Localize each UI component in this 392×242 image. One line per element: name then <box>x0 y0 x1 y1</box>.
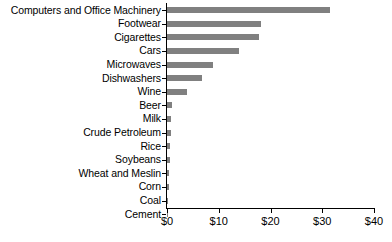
bar <box>167 143 170 149</box>
bar <box>167 198 168 204</box>
x-axis-label: $40 <box>365 215 383 228</box>
bar <box>167 34 259 40</box>
category-label: Cement <box>125 208 161 222</box>
y-axis-tick <box>162 146 166 147</box>
bar <box>167 75 202 81</box>
category-label: Dishwashers <box>102 72 161 86</box>
y-axis-tick <box>162 10 166 11</box>
chart-row: Milk <box>0 112 392 126</box>
category-label: Wheat and Meslin <box>79 167 161 181</box>
category-label: Microwaves <box>107 58 161 72</box>
chart-row: Soybeans <box>0 153 392 167</box>
chart-row: Dishwashers <box>0 72 392 86</box>
bar-chart: Computers and Office MachineryFootwearCi… <box>0 0 392 242</box>
chart-row: Beer <box>0 99 392 113</box>
bar <box>167 48 239 54</box>
y-axis-tick <box>162 24 166 25</box>
bar <box>167 157 170 163</box>
y-axis-tick <box>162 133 166 134</box>
category-label: Coal <box>140 194 161 208</box>
category-label: Soybeans <box>115 153 161 167</box>
y-axis-tick <box>162 78 166 79</box>
x-axis-tick <box>219 209 220 213</box>
bar <box>167 102 172 108</box>
chart-row: Rice <box>0 140 392 154</box>
category-label: Corn <box>139 180 161 194</box>
y-axis-tick <box>162 92 166 93</box>
chart-row: Cars <box>0 44 392 58</box>
bar <box>167 21 261 27</box>
y-axis-tick <box>162 187 166 188</box>
x-axis-label: $30 <box>313 215 331 228</box>
y-axis-tick <box>162 160 166 161</box>
chart-row: Wheat and Meslin <box>0 167 392 181</box>
y-axis-tick <box>162 119 166 120</box>
y-axis-tick <box>162 105 166 106</box>
chart-row: Footwear <box>0 17 392 31</box>
chart-row: Computers and Office Machinery <box>0 4 392 18</box>
x-axis-label: $20 <box>261 215 279 228</box>
chart-row: Crude Petroleum <box>0 126 392 140</box>
bar <box>167 62 213 68</box>
category-label: Computers and Office Machinery <box>11 4 161 18</box>
bar <box>167 130 171 136</box>
y-axis-tick <box>162 51 166 52</box>
x-axis-tick <box>167 209 168 213</box>
bar <box>167 7 330 13</box>
y-axis-tick <box>162 173 166 174</box>
category-label: Footwear <box>118 17 161 31</box>
chart-row: Cigarettes <box>0 31 392 45</box>
chart-row: Coal <box>0 194 392 208</box>
y-axis-tick <box>162 65 166 66</box>
chart-row: Corn <box>0 180 392 194</box>
x-axis-tick <box>322 209 323 213</box>
bar <box>167 170 169 176</box>
bar <box>167 184 169 190</box>
category-label: Cigarettes <box>114 31 161 45</box>
category-label: Cars <box>139 44 161 58</box>
category-label: Milk <box>143 112 161 126</box>
x-axis-label: $10 <box>210 215 228 228</box>
bar <box>167 116 171 122</box>
chart-row: Cement <box>0 208 392 222</box>
x-axis-tick <box>271 209 272 213</box>
category-label: Beer <box>139 99 161 113</box>
category-label: Rice <box>140 140 161 154</box>
bar <box>167 89 187 95</box>
x-axis-tick <box>374 209 375 213</box>
category-label: Wine <box>137 85 161 99</box>
category-label: Crude Petroleum <box>83 126 161 140</box>
x-axis-label: $0 <box>161 215 173 228</box>
y-axis-tick <box>162 37 166 38</box>
chart-row: Wine <box>0 85 392 99</box>
y-axis-tick <box>162 201 166 202</box>
chart-row: Microwaves <box>0 58 392 72</box>
